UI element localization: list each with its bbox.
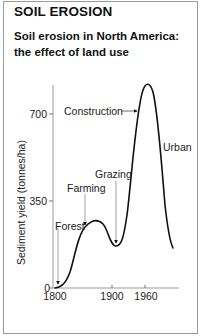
annotation-urban: Urban — [163, 141, 192, 153]
annotation-forest: Forest — [55, 220, 85, 232]
annotation-grazing: Grazing — [95, 168, 132, 180]
annotation-construction: Construction — [64, 105, 123, 117]
y-tick-label: 700 — [29, 108, 47, 120]
y-tick-label: 350 — [29, 195, 47, 207]
sediment-chart: 700 350 0 1800 1900 1960 Sediment yield … — [0, 0, 202, 336]
annotation-farming: Farming — [67, 182, 106, 194]
x-tick-label: 1800 — [43, 290, 67, 302]
x-tick-label: 1960 — [134, 290, 158, 302]
y-axis-label: Sediment yield (tonnes/ha) — [15, 140, 27, 265]
x-tick-label: 1900 — [100, 290, 124, 302]
